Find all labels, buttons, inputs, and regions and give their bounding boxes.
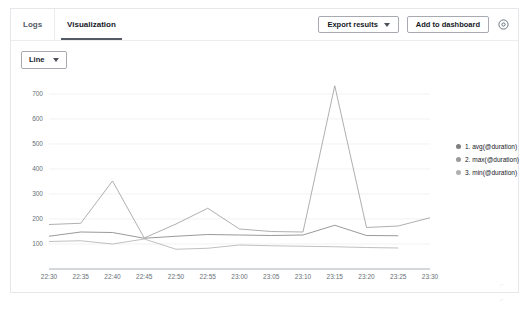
legend-item-2[interactable]: 2. max(@duration): [456, 156, 519, 163]
tab-logs-label: Logs: [23, 20, 42, 29]
y-axis-tick: 200: [32, 215, 43, 222]
series-line-2: [49, 85, 430, 237]
y-axis-tick: 100: [32, 240, 43, 247]
x-axis-tick: 22:30: [41, 273, 58, 280]
legend-item-label: 1. avg(@duration): [465, 143, 517, 150]
y-axis-tick: 600: [32, 115, 43, 122]
x-axis-tick: 23:15: [327, 273, 344, 280]
series-line-1: [49, 225, 398, 238]
corner-artifact-top: ⌐: [500, 281, 504, 288]
chevron-down-icon: [53, 58, 59, 62]
tab-visualization-label: Visualization: [67, 20, 116, 29]
legend-item-3[interactable]: 3. min(@duration): [456, 169, 519, 176]
chart-controls: Line: [11, 41, 518, 73]
x-axis-tick: 23:30: [422, 273, 439, 280]
chart-type-select[interactable]: Line: [21, 51, 67, 69]
chart-area: 10020030040050060070022:3022:3522:4022:4…: [11, 73, 518, 295]
y-axis-tick: 300: [32, 190, 43, 197]
export-results-button[interactable]: Export results: [318, 16, 398, 34]
legend-item-label: 2. max(@duration): [465, 156, 519, 163]
chart-type-label: Line: [29, 56, 44, 64]
legend-item-1[interactable]: 1. avg(@duration): [456, 143, 519, 150]
legend-color-dot: [456, 144, 461, 149]
x-axis-tick: 22:40: [104, 273, 121, 280]
x-axis-tick: 23:10: [295, 273, 312, 280]
corner-artifact-bottom: ⌐: [500, 296, 504, 303]
tab-bar: Logs Visualization: [11, 9, 128, 40]
query-results-panel: Logs Visualization Export results Add to…: [10, 8, 519, 293]
y-axis-tick: 500: [32, 140, 43, 147]
legend-color-dot: [456, 157, 461, 162]
legend-color-dot: [456, 170, 461, 175]
tab-visualization[interactable]: Visualization: [54, 9, 128, 40]
chevron-down-icon: [384, 23, 390, 27]
panel-header: Logs Visualization Export results Add to…: [11, 9, 518, 41]
x-axis-tick: 22:50: [168, 273, 185, 280]
gear-icon[interactable]: [497, 18, 510, 31]
chart-legend: 1. avg(@duration)2. max(@duration)3. min…: [456, 143, 519, 176]
x-axis-tick: 22:35: [73, 273, 90, 280]
tab-logs[interactable]: Logs: [11, 9, 54, 40]
x-axis-tick: 23:20: [358, 273, 375, 280]
add-to-dashboard-button[interactable]: Add to dashboard: [407, 16, 489, 34]
x-axis-tick: 23:25: [390, 273, 407, 280]
x-axis-tick: 22:55: [200, 273, 217, 280]
add-to-dashboard-label: Add to dashboard: [416, 21, 480, 29]
y-axis-tick: 700: [32, 90, 43, 97]
export-results-label: Export results: [327, 21, 377, 29]
line-chart: 10020030040050060070022:3022:3522:4022:4…: [11, 73, 520, 295]
legend-item-label: 3. min(@duration): [465, 169, 517, 176]
x-axis-tick: 22:45: [136, 273, 153, 280]
x-axis-tick: 23:00: [231, 273, 248, 280]
y-axis-tick: 400: [32, 165, 43, 172]
header-actions: Export results Add to dashboard: [318, 16, 518, 34]
x-axis-tick: 23:05: [263, 273, 280, 280]
